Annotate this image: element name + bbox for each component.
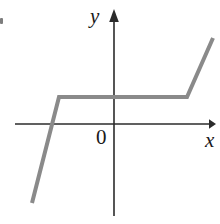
- function-curve: [32, 38, 213, 203]
- y-axis-arrowhead: [109, 9, 119, 22]
- graph-figure: y x 0: [0, 0, 220, 224]
- origin-label: 0: [96, 127, 107, 148]
- y-axis-label: y: [90, 6, 99, 27]
- coordinate-plot: [0, 0, 220, 224]
- x-axis-label: x: [205, 130, 214, 151]
